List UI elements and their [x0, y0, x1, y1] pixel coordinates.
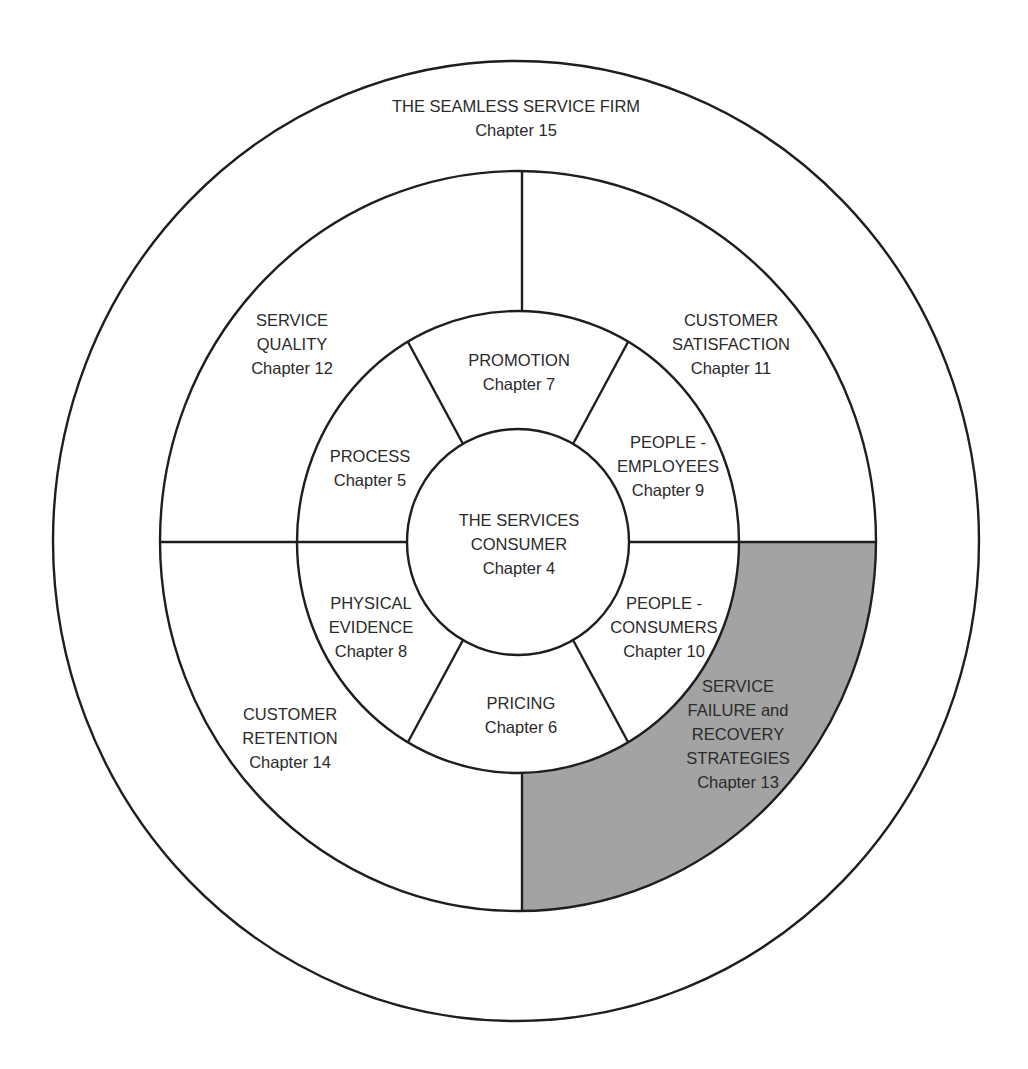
svg-text:CONSUMER: CONSUMER	[471, 535, 567, 553]
svg-text:Chapter 10: Chapter 10	[623, 642, 705, 660]
services-marketing-wheel-diagram: THE SEAMLESS SERVICE FIRM Chapter 15 SER…	[0, 0, 1028, 1069]
svg-text:PROMOTION: PROMOTION	[468, 351, 570, 369]
svg-text:FAILURE and: FAILURE and	[688, 701, 789, 719]
svg-text:CUSTOMER: CUSTOMER	[243, 705, 337, 723]
svg-text:Chapter 11: Chapter 11	[691, 359, 771, 377]
svg-text:PEOPLE -: PEOPLE -	[630, 433, 706, 451]
svg-text:EMPLOYEES: EMPLOYEES	[617, 457, 719, 475]
svg-text:CONSUMERS: CONSUMERS	[610, 618, 717, 636]
spoke-lower-left	[408, 640, 463, 742]
svg-text:Chapter 12: Chapter 12	[251, 359, 333, 377]
spoke-upper-left	[408, 342, 463, 444]
segment-people-consumers: PEOPLE - CONSUMERS Chapter 10	[610, 594, 717, 660]
segment-promotion: PROMOTION Chapter 7	[468, 351, 570, 393]
svg-text:SERVICE: SERVICE	[256, 311, 328, 329]
svg-text:THE SERVICES: THE SERVICES	[459, 511, 580, 529]
spoke-lower-right	[573, 640, 628, 742]
svg-text:SATISFACTION: SATISFACTION	[672, 335, 790, 353]
svg-text:Chapter 5: Chapter 5	[334, 471, 406, 489]
outer-title: THE SEAMLESS SERVICE FIRM	[392, 97, 640, 115]
svg-text:QUALITY: QUALITY	[257, 335, 328, 353]
svg-text:Chapter 14: Chapter 14	[249, 753, 331, 771]
segment-process: PROCESS Chapter 5	[330, 447, 411, 489]
quadrant-service-quality: SERVICE QUALITY Chapter 12	[251, 311, 333, 377]
quadrant-customer-retention: CUSTOMER RETENTION Chapter 14	[242, 705, 337, 771]
segment-pricing: PRICING Chapter 6	[485, 694, 557, 736]
outer-chapter: Chapter 15	[475, 121, 557, 139]
svg-text:Chapter 8: Chapter 8	[335, 642, 407, 660]
svg-text:STRATEGIES: STRATEGIES	[686, 749, 789, 767]
svg-text:CUSTOMER: CUSTOMER	[684, 311, 778, 329]
svg-text:Chapter 9: Chapter 9	[632, 481, 704, 499]
spoke-upper-right	[573, 342, 628, 444]
center-services-consumer: THE SERVICES CONSUMER Chapter 4	[459, 511, 580, 577]
svg-text:PHYSICAL: PHYSICAL	[330, 594, 412, 612]
svg-text:EVIDENCE: EVIDENCE	[329, 618, 413, 636]
segment-physical-evidence: PHYSICAL EVIDENCE Chapter 8	[329, 594, 413, 660]
svg-text:Chapter 13: Chapter 13	[697, 773, 779, 791]
svg-text:Chapter 7: Chapter 7	[483, 375, 555, 393]
svg-text:RECOVERY: RECOVERY	[692, 725, 784, 743]
svg-text:RETENTION: RETENTION	[242, 729, 337, 747]
segment-people-employees: PEOPLE - EMPLOYEES Chapter 9	[617, 433, 719, 499]
svg-text:PRICING: PRICING	[487, 694, 556, 712]
svg-text:Chapter 4: Chapter 4	[483, 559, 555, 577]
svg-text:PEOPLE -: PEOPLE -	[626, 594, 702, 612]
svg-text:Chapter 6: Chapter 6	[485, 718, 557, 736]
svg-text:PROCESS: PROCESS	[330, 447, 411, 465]
quadrant-customer-satisfaction: CUSTOMER SATISFACTION Chapter 11	[672, 311, 790, 377]
svg-text:SERVICE: SERVICE	[702, 677, 774, 695]
